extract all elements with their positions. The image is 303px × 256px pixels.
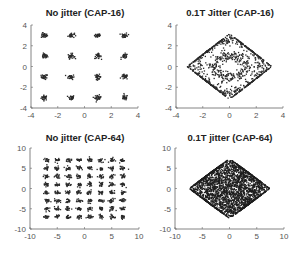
y-tick-label: -2 — [165, 83, 173, 92]
x-tick-label: -4 — [172, 111, 180, 120]
x-tick-label: 0 — [227, 232, 232, 241]
x-tick-label: 5 — [255, 232, 260, 241]
y-tick-label: 5 — [167, 164, 172, 173]
x-tick-label: -5 — [199, 232, 207, 241]
x-tick-label: -10 — [24, 232, 36, 241]
y-tick-label: -10 — [14, 225, 26, 234]
data-points — [189, 160, 270, 219]
plot-cap16-jitter: 0.1T Jitter (CAP-16) -4-2024-4-2024 — [151, 0, 303, 128]
plot-cap64-jitter: 0.1T jitter (CAP-64) -10-50510-10-50510 — [151, 128, 303, 256]
y-tick-label: 0 — [168, 63, 173, 72]
y-tick-label: 4 — [168, 21, 173, 30]
plot-cap16-no-jitter: No jitter (CAP-16) -4-2024-4-2024 — [0, 0, 151, 128]
y-tick-label: -5 — [164, 205, 172, 214]
scatter-plot: -10-50510-10-50510 — [151, 128, 303, 256]
y-tick-label: 2 — [168, 42, 173, 51]
y-tick-label: 2 — [23, 42, 28, 51]
plot-cap64-no-jitter: No jitter (CAP-64) -10-50510-10-50510 — [0, 128, 151, 256]
x-tick-label: -5 — [54, 232, 62, 241]
y-tick-label: -4 — [165, 104, 173, 113]
y-tick-label: -2 — [20, 83, 28, 92]
data-points — [43, 156, 130, 220]
x-tick-label: 4 — [136, 111, 141, 120]
data-points — [187, 34, 272, 99]
data-points — [40, 32, 129, 102]
y-tick-label: -10 — [159, 225, 171, 234]
y-tick-label: 4 — [23, 21, 28, 30]
x-tick-label: -2 — [199, 111, 207, 120]
x-tick-label: 10 — [135, 232, 144, 241]
y-tick-label: -5 — [19, 205, 27, 214]
scatter-plot: -4-2024-4-2024 — [0, 0, 151, 128]
x-tick-label: 10 — [280, 232, 289, 241]
x-tick-label: 0 — [227, 111, 232, 120]
x-tick-label: -2 — [54, 111, 62, 120]
x-tick-label: 0 — [82, 232, 87, 241]
x-tick-label: 2 — [109, 111, 114, 120]
x-tick-label: 2 — [254, 111, 259, 120]
y-tick-label: 5 — [22, 164, 27, 173]
x-tick-label: 4 — [281, 111, 286, 120]
y-tick-label: 0 — [167, 185, 172, 194]
y-tick-label: 10 — [162, 144, 171, 153]
y-tick-label: 10 — [17, 144, 26, 153]
y-tick-label: 0 — [23, 63, 28, 72]
scatter-plot: -4-2024-4-2024 — [151, 0, 303, 128]
y-tick-label: 0 — [22, 185, 27, 194]
y-tick-label: -4 — [20, 104, 28, 113]
scatter-plot: -10-50510-10-50510 — [0, 128, 151, 256]
x-tick-label: 5 — [110, 232, 115, 241]
x-tick-label: -4 — [27, 111, 35, 120]
x-tick-label: -10 — [169, 232, 181, 241]
x-tick-label: 0 — [82, 111, 87, 120]
